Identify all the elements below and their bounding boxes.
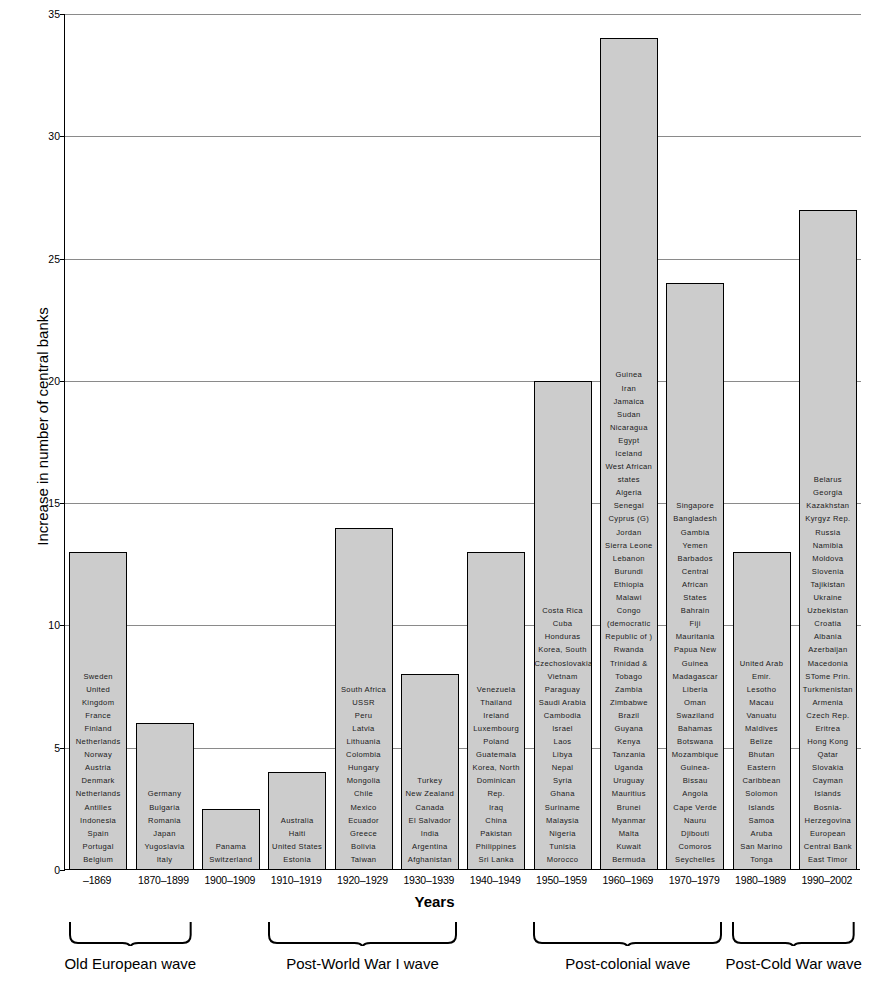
country-name: Korea, South	[535, 643, 591, 656]
country-name: Algeria	[601, 486, 657, 499]
x-tick-label: 1930–1939	[396, 874, 462, 886]
country-name: Azerbaijan	[800, 643, 856, 656]
country-name: Libya	[535, 748, 591, 761]
country-name: Uganda	[601, 761, 657, 774]
country-name: Poland	[468, 735, 524, 748]
country-name: Liberia	[667, 683, 723, 696]
country-name: El Salvador	[402, 814, 458, 827]
bar: Costa RicaCubaHondurasKorea, SouthCzecho…	[534, 381, 592, 870]
x-tick-label: –1869	[64, 874, 130, 886]
country-name: Qatar	[800, 748, 856, 761]
country-name: Latvia	[336, 722, 392, 735]
country-name: Tanzania	[601, 748, 657, 761]
country-name: Kingdom	[70, 696, 126, 709]
country-name: Macedonia	[800, 657, 856, 670]
country-name: Czech Rep.	[800, 709, 856, 722]
bar-country-list: SwedenUnitedKingdomFranceFinlandNetherla…	[70, 670, 126, 866]
country-name: Thailand	[468, 696, 524, 709]
country-name: Greece	[336, 827, 392, 840]
country-name: Djibouti	[667, 827, 723, 840]
country-name: Ethiopia	[601, 578, 657, 591]
country-name: Malawi	[601, 591, 657, 604]
country-name: Croatia	[800, 617, 856, 630]
country-name: Maldives	[734, 722, 790, 735]
country-name: Spain	[70, 827, 126, 840]
x-tick-label: 1950–1959	[528, 874, 594, 886]
y-tick-mark	[60, 870, 65, 871]
country-name: Germany	[137, 787, 193, 800]
country-name: Venezuela	[468, 683, 524, 696]
country-name: STome Prin.	[800, 670, 856, 683]
wave-caption: Post-World War I wave	[286, 955, 439, 972]
country-name: states	[601, 473, 657, 486]
bar: SingaporeBangladeshGambiaYemenBarbadosCe…	[666, 283, 724, 870]
country-name: Singapore	[667, 499, 723, 512]
country-name: Denmark	[70, 774, 126, 787]
y-tick-label: 30	[30, 130, 60, 142]
country-name: Afghanistan	[402, 853, 458, 866]
country-name: Samoa	[734, 814, 790, 827]
country-name: Belize	[734, 735, 790, 748]
wave-brace	[731, 920, 856, 946]
x-tick-label: 1870–1899	[130, 874, 196, 886]
country-name: Malaysia	[535, 814, 591, 827]
country-name: Syria	[535, 774, 591, 787]
country-name: Sudan	[601, 408, 657, 421]
country-name: Netherlands	[70, 787, 126, 800]
y-tick-label: 0	[30, 864, 60, 876]
country-name: Malta	[601, 827, 657, 840]
country-name: Solomon	[734, 787, 790, 800]
wave-caption: Post-Cold War wave	[726, 955, 862, 972]
country-name: Panama	[203, 840, 259, 853]
country-name: Bhutan	[734, 748, 790, 761]
country-name: Australia	[269, 814, 325, 827]
bar-country-list: GermanyBulgariaRomaniaJapanYugoslaviaIta…	[137, 787, 193, 866]
country-name: Oman	[667, 696, 723, 709]
country-name: Ecuador	[336, 814, 392, 827]
x-tick-label: 1910–1919	[263, 874, 329, 886]
wave-brace	[267, 920, 458, 946]
country-name: Myanmar	[601, 814, 657, 827]
country-name: Vanuatu	[734, 709, 790, 722]
country-name: Seychelles	[667, 853, 723, 866]
country-name: Guatemala	[468, 748, 524, 761]
country-name: France	[70, 709, 126, 722]
country-name: Bangladesh	[667, 512, 723, 525]
country-name: San Marino	[734, 840, 790, 853]
country-name: Lebanon	[601, 552, 657, 565]
x-tick-label: 1920–1929	[329, 874, 395, 886]
country-name: Norway	[70, 748, 126, 761]
country-name: Antilles	[70, 801, 126, 814]
country-name: Korea, North	[468, 761, 524, 774]
country-name: West African	[601, 460, 657, 473]
country-name: Barbados	[667, 552, 723, 565]
bar-country-list: Costa RicaCubaHondurasKorea, SouthCzecho…	[535, 604, 591, 866]
central-banks-bar-chart: Increase in number of central banks 0510…	[0, 0, 869, 988]
country-name: Japan	[137, 827, 193, 840]
x-tick-label: 1980–1989	[727, 874, 793, 886]
bar-country-list: BelarusGeorgiaKazakhstanKyrgyz Rep.Russi…	[800, 473, 856, 866]
country-name: Papua New	[667, 643, 723, 656]
bar: VenezuelaThailandIrelandLuxembourgPoland…	[467, 552, 525, 870]
country-name: South Africa	[336, 683, 392, 696]
country-name: Nicaragua	[601, 421, 657, 434]
country-name: Cuba	[535, 617, 591, 630]
bar: BelarusGeorgiaKazakhstanKyrgyz Rep.Russi…	[799, 210, 857, 870]
x-tick-label: 1960–1969	[595, 874, 661, 886]
country-name: East Timor	[800, 853, 856, 866]
country-name: Slovenia	[800, 565, 856, 578]
country-name: Fiji	[667, 617, 723, 630]
country-name: Turkey	[402, 774, 458, 787]
country-name: Lesotho	[734, 683, 790, 696]
country-name: Israel	[535, 722, 591, 735]
country-name: Central	[667, 565, 723, 578]
y-tick-label: 5	[30, 742, 60, 754]
country-name: United	[70, 683, 126, 696]
country-name: Guinea	[667, 657, 723, 670]
country-name: European	[800, 827, 856, 840]
country-name: Herzegovina	[800, 814, 856, 827]
country-name: Haiti	[269, 827, 325, 840]
bar: TurkeyNew ZealandCanadaEl SalvadorIndiaA…	[401, 674, 459, 870]
bar-country-list: AustraliaHaitiUnited StatesEstonia	[269, 814, 325, 866]
country-name: Saudi Arabia	[535, 696, 591, 709]
